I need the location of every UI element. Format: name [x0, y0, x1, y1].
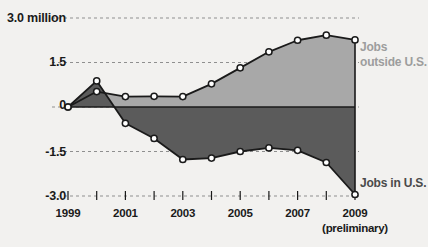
series-label-jobs-in-us: Jobs in U.S. — [360, 176, 426, 191]
y-axis-label-3-0-million: 3.0 million — [7, 11, 66, 25]
chart-container: 3.0 million 1.5 0 -1.5 -3.0 1999 2001 20… — [0, 0, 428, 247]
data-point-marker — [352, 191, 358, 197]
series-label-outside-line1: Jobs — [360, 40, 427, 55]
data-point-marker — [122, 120, 128, 126]
data-point-marker — [180, 156, 186, 162]
x-axis-label-2003: 2003 — [170, 207, 195, 219]
data-point-marker — [323, 32, 329, 38]
x-axis-note-preliminary: (preliminary) — [322, 222, 388, 234]
data-point-marker — [208, 81, 214, 87]
data-point-marker — [94, 78, 100, 84]
data-point-marker — [237, 65, 243, 71]
data-point-marker — [151, 93, 157, 99]
x-axis-label-2001: 2001 — [113, 207, 138, 219]
x-axis-label-2009: 2009 — [343, 207, 368, 219]
series-label-outside-line2: outside U.S. — [360, 55, 427, 70]
y-axis-label-neg-3-0: -3.0 — [45, 189, 66, 203]
data-point-marker — [180, 94, 186, 100]
data-point-marker — [323, 159, 329, 165]
data-point-marker — [151, 135, 157, 141]
data-point-marker — [208, 155, 214, 161]
data-point-marker — [295, 37, 301, 43]
series-label-jobs-outside-us: Jobs outside U.S. — [360, 40, 427, 70]
data-point-marker — [237, 148, 243, 154]
y-axis-label-neg-1-5: -1.5 — [45, 145, 66, 159]
x-axis-label-1999: 1999 — [56, 207, 81, 219]
data-point-marker — [94, 88, 100, 94]
y-axis-label-1-5: 1.5 — [49, 55, 66, 69]
area-series-0 — [68, 35, 355, 107]
y-axis-label-0: 0 — [59, 98, 66, 112]
x-axis-label-2007: 2007 — [285, 207, 310, 219]
data-point-marker — [266, 145, 272, 151]
data-point-marker — [266, 49, 272, 55]
data-point-marker — [295, 147, 301, 153]
x-axis-label-2005: 2005 — [228, 207, 253, 219]
data-point-marker — [122, 94, 128, 100]
data-point-marker — [352, 37, 358, 43]
